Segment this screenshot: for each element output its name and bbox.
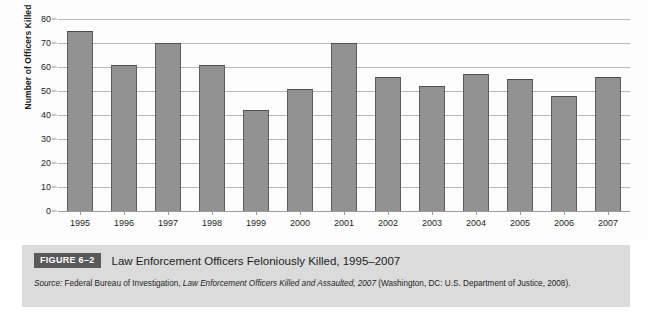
- x-tick-mark-2006: [564, 211, 565, 215]
- x-tick-label-1996: 1996: [114, 218, 134, 228]
- x-tick-label-2001: 2001: [334, 218, 354, 228]
- x-tick-label-2002: 2002: [378, 218, 398, 228]
- y-tick-mark-80: [52, 19, 57, 20]
- x-tick-mark-2005: [520, 211, 521, 215]
- plot-area: 01020304050607080 1995199619971998199920…: [58, 19, 630, 211]
- source-publisher: Federal Bureau of Investigation,: [62, 279, 183, 288]
- x-tick-mark-1999: [256, 211, 257, 215]
- bar-slot: [419, 19, 445, 211]
- bar-2004: [463, 74, 489, 211]
- y-tick-mark-10: [52, 187, 57, 188]
- source-publication-title: Law Enforcement Officers Killed and Assa…: [183, 279, 376, 288]
- bar-1997: [155, 43, 181, 211]
- x-tick-mark-1995: [80, 211, 81, 215]
- bar-series: [58, 19, 630, 211]
- bar-slot: [111, 19, 137, 211]
- bar-2000: [287, 89, 313, 211]
- bar-2006: [551, 96, 577, 211]
- bar-2003: [419, 86, 445, 211]
- bar-1995: [67, 31, 93, 211]
- source-imprint: (Washington, DC: U.S. Department of Just…: [376, 279, 570, 288]
- y-tick-mark-20: [52, 163, 57, 164]
- x-tick-label-1998: 1998: [202, 218, 222, 228]
- x-tick-label-2006: 2006: [554, 218, 574, 228]
- x-tick-label-1997: 1997: [158, 218, 178, 228]
- x-tick-mark-2000: [300, 211, 301, 215]
- y-tick-label-30: 30: [41, 134, 51, 144]
- source-label: Source:: [34, 279, 62, 288]
- x-tick-mark-2001: [344, 211, 345, 215]
- bar-slot: [287, 19, 313, 211]
- x-tick-label-1995: 1995: [70, 218, 90, 228]
- x-tick-label-2007: 2007: [598, 218, 618, 228]
- y-tick-label-70: 70: [41, 38, 51, 48]
- bar-1996: [111, 65, 137, 211]
- y-tick-label-0: 0: [46, 206, 51, 216]
- x-tick-label-1999: 1999: [246, 218, 266, 228]
- x-tick-mark-2007: [608, 211, 609, 215]
- x-tick-label-2000: 2000: [290, 218, 310, 228]
- figure-source-line: Source: Federal Bureau of Investigation,…: [34, 278, 620, 290]
- bar-slot: [199, 19, 225, 211]
- bar-2005: [507, 79, 533, 211]
- y-tick-label-60: 60: [41, 62, 51, 72]
- x-tick-mark-1997: [168, 211, 169, 215]
- y-tick-mark-60: [52, 67, 57, 68]
- y-tick-label-20: 20: [41, 158, 51, 168]
- y-tick-label-40: 40: [41, 110, 51, 120]
- x-tick-label-2003: 2003: [422, 218, 442, 228]
- bar-slot: [67, 19, 93, 211]
- bar-2007: [595, 77, 621, 211]
- bar-slot: [507, 19, 533, 211]
- y-tick-mark-0: [52, 211, 57, 212]
- bar-chart: Number of Officers Killed 01020304050607…: [0, 0, 648, 240]
- bar-slot: [463, 19, 489, 211]
- bar-slot: [331, 19, 357, 211]
- x-tick-label-2005: 2005: [510, 218, 530, 228]
- y-tick-mark-50: [52, 91, 57, 92]
- x-tick-mark-2004: [476, 211, 477, 215]
- x-tick-label-2004: 2004: [466, 218, 486, 228]
- x-tick-mark-2002: [388, 211, 389, 215]
- x-tick-mark-2003: [432, 211, 433, 215]
- bar-1999: [243, 110, 269, 211]
- bar-slot: [551, 19, 577, 211]
- y-tick-mark-40: [52, 115, 57, 116]
- figure-title-text: Law Enforcement Officers Feloniously Kil…: [112, 255, 401, 267]
- bar-slot: [375, 19, 401, 211]
- figure-caption: FIGURE 6–2 Law Enforcement Officers Felo…: [22, 245, 630, 307]
- x-tick-mark-1998: [212, 211, 213, 215]
- bar-slot: [595, 19, 621, 211]
- bar-slot: [243, 19, 269, 211]
- bar-1998: [199, 65, 225, 211]
- y-tick-label-50: 50: [41, 86, 51, 96]
- y-tick-label-80: 80: [41, 14, 51, 24]
- y-axis-title: Number of Officers Killed: [23, 0, 33, 147]
- y-tick-label-10: 10: [41, 182, 51, 192]
- x-tick-mark-1996: [124, 211, 125, 215]
- figure-container: Number of Officers Killed 01020304050607…: [0, 0, 648, 315]
- bar-2002: [375, 77, 401, 211]
- y-tick-mark-70: [52, 43, 57, 44]
- figure-number-badge: FIGURE 6–2: [34, 253, 101, 268]
- bar-2001: [331, 43, 357, 211]
- bar-slot: [155, 19, 181, 211]
- caption-title-row: FIGURE 6–2 Law Enforcement Officers Felo…: [34, 253, 400, 268]
- y-tick-mark-30: [52, 139, 57, 140]
